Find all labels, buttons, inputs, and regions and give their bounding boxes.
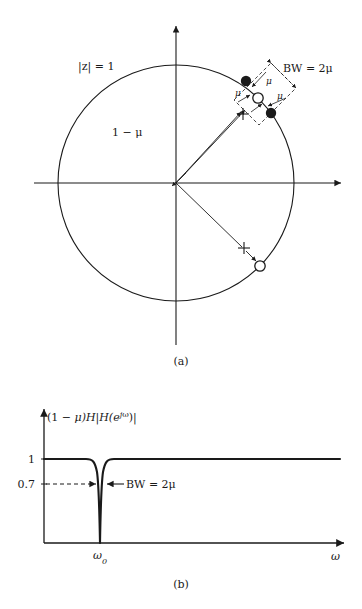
mu-label-1: μ (266, 76, 272, 86)
conjugate-ray (176, 183, 242, 247)
magnitude-y-axis-label: (1 − μ)H|H(ejω)| (47, 410, 137, 426)
ylabel-mid: )H|H(e (81, 411, 120, 425)
omega0-base: ω (93, 549, 102, 562)
mu-label-2: μ (277, 91, 283, 101)
xtick-label-omega0: ω0 (93, 549, 107, 566)
radius-vector-inner (179, 110, 245, 180)
bandwidth-label-b: BW = 2μ (126, 478, 176, 491)
ytick-label-1: 1 (28, 453, 35, 466)
bandwidth-label-a: BW = 2μ (283, 62, 333, 75)
mu-arrow-4 (251, 104, 262, 112)
conjugate-zero-arrow (246, 251, 256, 261)
pole-upper-marker (237, 108, 249, 120)
bw-point-lower-dot (266, 108, 276, 118)
unit-circle-label: |z| = 1 (78, 60, 114, 74)
ylabel-mu: μ (75, 411, 82, 424)
magnitude-x-axis-label: ω (331, 550, 340, 563)
bw-point-upper-dot (241, 76, 251, 86)
zero-upper-marker (253, 93, 263, 103)
panel-a-zplane: |z| = 1 1 − μ BW = 2μ μ μ μ (34, 26, 341, 345)
ytick-label-07: 0.7 (18, 478, 36, 491)
zero-lower-marker (255, 261, 265, 271)
radius-origin-arrow (172, 173, 186, 186)
ylabel-suffix: )| (129, 411, 137, 425)
ylabel-prefix: (1 − (47, 411, 75, 424)
radius-label: 1 − μ (112, 126, 142, 139)
mu-label-3: μ (235, 88, 241, 98)
panel-a-caption: (a) (0, 355, 362, 368)
mu-arrow-1 (252, 72, 266, 87)
omega0-sub: 0 (102, 557, 107, 566)
panel-b-magnitude-response: (1 − μ)H|H(ejω)| 1 0.7 BW = 2μ ω0 ω (18, 409, 345, 566)
pole-zero-and-magnitude-figure: |z| = 1 1 − μ BW = 2μ μ μ μ (0, 0, 362, 609)
magnitude-response-curve (44, 459, 340, 543)
pole-lower-marker (238, 242, 250, 254)
panel-b-caption: (b) (0, 578, 362, 591)
